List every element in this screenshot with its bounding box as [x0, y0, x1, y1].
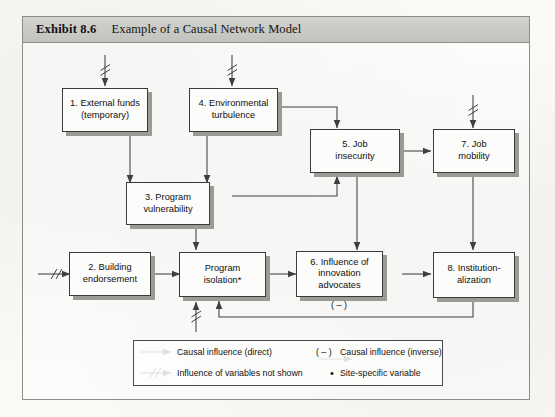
node-box-8-line1: 8. Institution-: [447, 263, 500, 273]
legend-notshown-label: Influence of variables not shown: [177, 368, 303, 378]
node-box-4[interactable]: 4. Environmentalturbulence: [189, 88, 278, 132]
node-box-program-isolation-face: Programisolation*: [179, 252, 266, 297]
node-box-6-line2: innovation: [318, 268, 360, 278]
node-box-2-line2: endorsement: [83, 274, 137, 284]
legend-sitespecific-label: Site-specific variable: [340, 368, 421, 378]
node-box-6[interactable]: 6. Influence ofinnovationadvocates: [296, 251, 383, 297]
node-box-5-line2: insecurity: [335, 151, 374, 161]
node-box-6-line1: 6. Influence of: [310, 257, 368, 267]
node-box-3-face: 3. Programvulnerability: [126, 182, 210, 225]
node-box-8[interactable]: 8. Institution-alization: [433, 252, 515, 298]
legend-inverse-label: Causal influence (inverse): [340, 347, 442, 357]
node-box-8-face: 8. Institution-alization: [433, 252, 515, 298]
node-box-1-line2: (temporary): [81, 110, 129, 120]
node-box-4-face: 4. Environmentalturbulence: [189, 88, 278, 132]
node-box-5-line1: 5. Job: [342, 139, 367, 149]
legend-direct-label: Causal influence (direct): [177, 347, 272, 357]
node-box-7[interactable]: 7. Jobmobility: [433, 129, 515, 173]
node-box-program-isolation-line1: Program: [205, 263, 241, 273]
node-box-program-isolation[interactable]: Programisolation*: [179, 252, 266, 297]
node-box-4-line1: 4. Environmental: [199, 98, 269, 108]
node-box-6-line3: advocates: [318, 280, 360, 290]
node-box-7-line1: 7. Job: [461, 139, 486, 149]
node-box-1-face: 1. External funds(temporary): [62, 88, 148, 132]
node-box-8-line2: alization: [457, 275, 491, 285]
node-box-3-line1: 3. Program: [145, 192, 191, 202]
node-box-6-face: 6. Influence ofinnovationadvocates: [296, 251, 383, 297]
inverse-influence-marker: ( – ): [331, 300, 347, 310]
node-box-3-line2: vulnerability: [143, 204, 192, 214]
node-box-7-line2: mobility: [458, 151, 490, 161]
exhibit-label: Exhibit 8.6: [36, 22, 97, 37]
node-box-program-isolation-line2: isolation*: [204, 275, 242, 285]
node-box-4-line2: turbulence: [212, 110, 255, 120]
node-box-5-face: 5. Jobinsecurity: [310, 129, 400, 173]
node-box-2-line1: 2. Building: [88, 262, 131, 272]
node-box-5[interactable]: 5. Jobinsecurity: [310, 129, 400, 173]
node-box-1[interactable]: 1. External funds(temporary): [62, 88, 148, 132]
legend-sitespecific-dot-icon: •: [330, 367, 334, 379]
legend-inverse-prefix: ( – ): [316, 347, 332, 357]
exhibit-titlebar: Exhibit 8.6 Example of a Causal Network …: [23, 17, 529, 43]
node-box-1-line1: 1. External funds: [70, 98, 140, 108]
node-box-7-face: 7. Jobmobility: [433, 129, 515, 173]
node-box-2-face: 2. Buildingendorsement: [69, 252, 151, 296]
exhibit-title: Example of a Causal Network Model: [112, 22, 302, 37]
node-box-3[interactable]: 3. Programvulnerability: [126, 182, 210, 225]
node-box-2[interactable]: 2. Buildingendorsement: [69, 252, 151, 296]
